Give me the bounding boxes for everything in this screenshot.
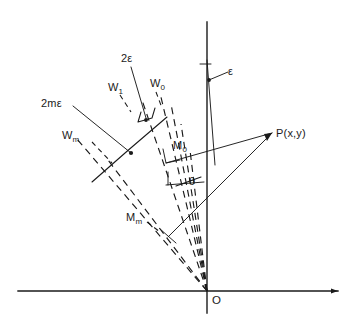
mm-label: Mm [126, 212, 142, 226]
dashed-ray-intermediate-3 [190, 150, 207, 291]
point-p-label: P(x,y) [276, 128, 306, 139]
w0-label: W0 [150, 78, 165, 92]
two-m-epsilon-leader [73, 106, 131, 153]
two-m-epsilon-label: 2mε [41, 98, 62, 109]
m0-label-subscript: 0 [182, 145, 187, 154]
dashed-ray-w1 [142, 100, 207, 291]
wm-label-base: W [62, 129, 73, 141]
x-axis-arrow [331, 289, 338, 294]
m0-label-base: M [173, 139, 182, 151]
mm-label-base: M [126, 211, 135, 223]
epsilon-leader [209, 72, 228, 80]
mm-leader [147, 222, 160, 232]
w0-label-base: W [150, 77, 161, 89]
epsilon-label: ε [228, 66, 233, 77]
wm-label: Wm [62, 130, 79, 144]
w1-leader [120, 95, 131, 112]
two-epsilon-leader [131, 67, 146, 118]
theta-label: θ [189, 176, 195, 187]
mm-label-subscript: m [135, 217, 142, 226]
wavefront-arc [92, 117, 167, 182]
dashed-ray-w0 [160, 93, 207, 291]
w0-label-subscript: 0 [161, 83, 166, 92]
w1-label: W1 [108, 82, 123, 96]
figure-canvas: O 2ε 2mε ε θ P(x,y) W1 W0 Wm M0 Mm [0, 0, 355, 336]
dashed-ray-intermediate-1 [171, 104, 207, 291]
w1-label-base: W [108, 81, 119, 93]
two-epsilon-anchor-dot [144, 118, 148, 122]
w1-label-subscript: 1 [119, 87, 124, 96]
two-epsilon-label: 2ε [121, 53, 132, 64]
diagram-svg [0, 0, 355, 336]
origin-label: O [212, 295, 221, 307]
wm-label-subscript: m [73, 135, 80, 144]
m0-label: M0 [173, 140, 187, 154]
